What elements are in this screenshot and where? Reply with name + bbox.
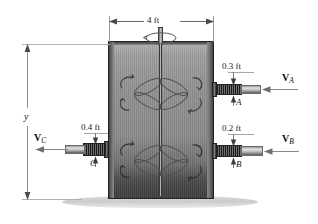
port-c-dim-arrow-top-icon (91, 137, 100, 145)
top-dim-arrow-right-icon (205, 17, 215, 26)
port-a-pipe-smooth (241, 85, 261, 94)
velocity-c-label: VC (34, 133, 46, 145)
port-b-point-label: B (236, 160, 242, 169)
port-a-dim-arrow-top-icon (229, 78, 238, 86)
velocity-c-arrow-line (42, 149, 68, 150)
velocity-b-arrowhead-icon (263, 147, 273, 156)
port-c-dimension-label: 0.4 ft (81, 123, 100, 132)
y-dim-extension-top (22, 44, 110, 45)
port-b-dim-arrow-top-icon (229, 139, 238, 147)
port-a-dim-extension-top (228, 72, 254, 73)
port-c-point-label: C (90, 159, 96, 168)
port-b-dimension-label: 0.2 ft (222, 124, 241, 133)
velocity-a-arrowhead-icon (261, 85, 271, 94)
velocity-c-subscript: C (41, 136, 46, 145)
lower-impeller (114, 135, 208, 187)
y-dim-arrow-top-icon (23, 43, 32, 53)
velocity-b-subscript: B (289, 137, 294, 146)
y-dim-line-lower (27, 126, 28, 198)
shaft-rotation-arrow-icon (142, 30, 180, 46)
velocity-b-label: VB (282, 134, 294, 146)
port-a-dimension-label: 0.3 ft (222, 62, 241, 71)
velocity-a-subscript: A (289, 76, 294, 85)
top-dim-arrow-left-icon (108, 17, 118, 26)
figure-canvas: 4 ft y 0.3 ft A VA 0.2 ft B (0, 0, 318, 224)
upper-impeller (114, 68, 208, 120)
port-a-point-label: A (236, 98, 242, 107)
port-c-pipe-smooth (65, 145, 85, 154)
y-dim-arrow-bottom-icon (23, 191, 32, 201)
velocity-a-label: VA (282, 73, 294, 85)
velocity-a-arrow-line (267, 89, 298, 90)
port-c-dim-extension-top (84, 133, 108, 134)
port-b-pipe-smooth (241, 146, 263, 156)
y-dim-line-upper (27, 46, 28, 108)
height-dimension-label: y (24, 112, 28, 122)
velocity-b-arrow-line (269, 151, 299, 152)
top-dimension-label: 4 ft (147, 16, 159, 25)
port-b-dim-extension-top (228, 134, 254, 135)
velocity-c-arrowhead-icon (35, 145, 45, 154)
